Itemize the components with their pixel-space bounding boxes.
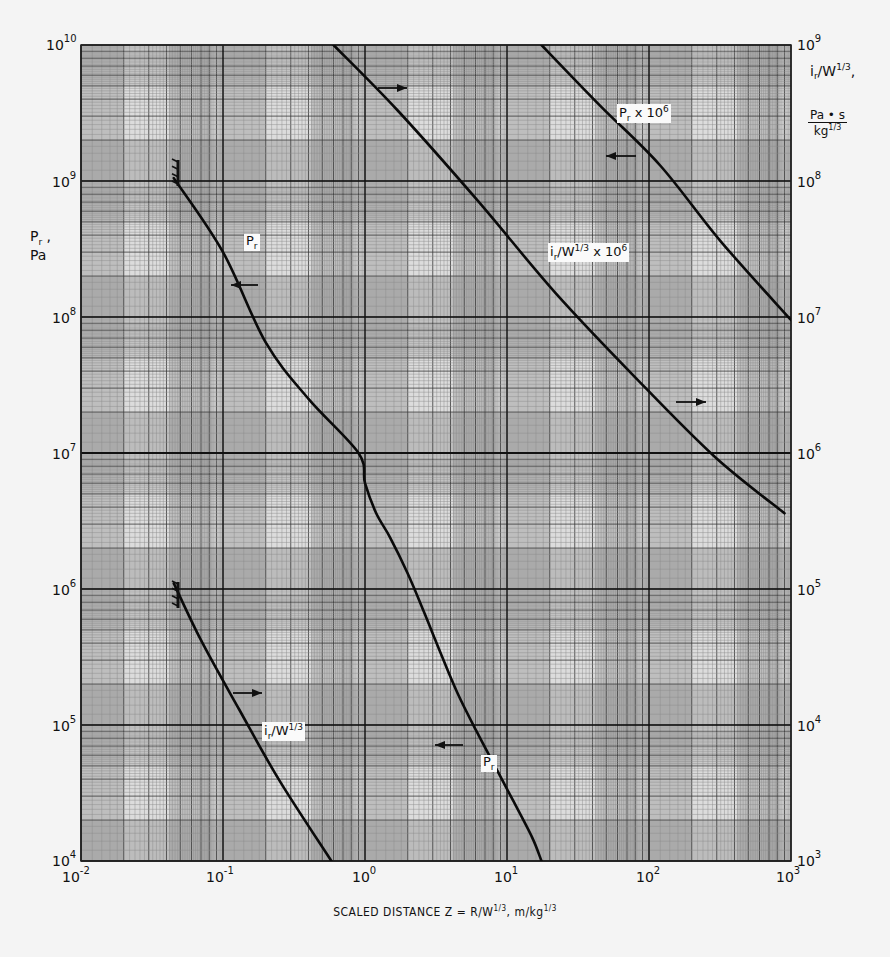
tick-base: 10 [206,869,224,885]
y-right-title: ir/W1/3, [810,62,855,81]
y-left-tick: 106 [52,581,76,597]
tick-exponent: 8 [70,306,76,317]
tick-exponent: 0 [370,865,376,876]
tick-exponent: 5 [70,714,76,725]
tick-exponent: 7 [70,442,76,453]
x-axis-title-main: SCALED DISTANCE Z = R/W [333,905,493,919]
y-right-unit-den-sup: 1/3 [828,123,841,132]
curve-label-prx-rest: x 10 [631,105,664,120]
tick-base: 10 [797,174,815,190]
y-right-tick: 106 [797,445,821,461]
y-right-tick: 109 [797,36,821,52]
tick-exponent: 4 [815,714,821,725]
y-right-tick: 108 [797,173,821,189]
x-tick: 100 [352,868,376,884]
y-right-unit-den-text: kg [814,124,829,138]
curve-label-pr-x1e6: Pr x 106 [617,104,671,123]
y-left-tick: 108 [52,309,76,325]
y-right-tick: 105 [797,581,821,597]
curve-label-irx-tail: x 10 [589,244,622,259]
y-right-tick: 103 [797,852,821,868]
x-axis-title: SCALED DISTANCE Z = R/W1/3, m/kg1/3 [0,904,890,919]
tick-base: 10 [776,869,794,885]
tick-exponent: 2 [654,865,660,876]
curve-label-ir-rest: /W [271,723,288,738]
tick-exponent: 9 [815,33,821,44]
tick-base: 10 [352,869,370,885]
y-right-unit-fraction: Pa • s kg1/3 [808,108,847,138]
y-left-tick: 104 [52,852,76,868]
curve-label-ir-sup: 1/3 [289,722,303,732]
chart-canvas [0,0,890,957]
tick-exponent: 4 [70,849,76,860]
tick-base: 10 [797,310,815,326]
y-left-tick: 109 [52,173,76,189]
y-left-tick: 107 [52,445,76,461]
curve-label-pr-symbol-2: P [483,754,491,769]
y-left-tick: 1010 [46,36,77,52]
x-tick: 102 [636,868,660,884]
tick-exponent: -2 [80,865,90,876]
y-right-unit: Pa • s kg1/3 [808,108,847,138]
tick-base: 10 [52,718,70,734]
x-tick: 10-2 [62,868,90,884]
tick-base: 10 [636,869,654,885]
y-right-unit-numerator: Pa • s [808,108,847,123]
tick-exponent: 9 [70,170,76,181]
tick-base: 10 [797,718,815,734]
curve-label-ir-x1e6: ir/W1/3 x 106 [548,243,629,262]
tick-exponent: 6 [815,442,821,453]
y-right-title-sup: 1/3 [836,62,850,72]
x-tick: 101 [494,868,518,884]
y-left-title-sep: , [42,228,51,244]
y-right-tick: 104 [797,717,821,733]
tick-exponent: 7 [815,306,821,317]
curve-label-irx-rest: /W [557,244,574,259]
tick-base: 10 [797,446,815,462]
curve-label-pr-symbol: P [246,233,254,248]
tick-base: 10 [52,853,70,869]
tick-base: 10 [52,174,70,190]
tick-exponent: 3 [794,865,800,876]
tick-base: 10 [52,582,70,598]
tick-exponent: 8 [815,170,821,181]
y-left-tick: 105 [52,717,76,733]
tick-base: 10 [62,869,80,885]
curve-label-irx-tail-sup: 6 [622,243,628,253]
y-right-tick: 107 [797,309,821,325]
curve-label-pr-lower: Pr [481,755,497,772]
tick-exponent: 3 [815,849,821,860]
x-axis-title-unit: , m/kg [507,905,544,919]
tick-exponent: 10 [64,33,77,44]
curve-label-prx-sup: 6 [663,104,669,114]
tick-base: 10 [52,310,70,326]
tick-base: 10 [797,582,815,598]
tick-exponent: 5 [815,578,821,589]
x-axis-title-sup2: 1/3 [544,904,557,913]
y-right-unit-denominator: kg1/3 [808,123,847,138]
x-axis-title-sup1: 1/3 [493,904,506,913]
tick-base: 10 [46,37,64,53]
x-tick: 10-1 [206,868,234,884]
y-right-title-comma: , [851,63,855,79]
curve-label-irx-sup: 1/3 [575,243,589,253]
y-left-title: Pr , Pa [30,228,51,263]
tick-exponent: -1 [224,865,234,876]
curve-label-pr-sub: r [254,241,258,251]
curve-label-prx-symbol: P [619,105,627,120]
curve-label-pr-upper-left: Pr [244,234,260,251]
tick-base: 10 [494,869,512,885]
tick-base: 10 [797,37,815,53]
y-left-title-unit: Pa [30,247,46,263]
tick-exponent: 6 [70,578,76,589]
curve-label-ir: ir/W1/3 [262,722,305,741]
x-tick: 103 [776,868,800,884]
curve-label-pr-sub-2: r [491,762,495,772]
tick-exponent: 1 [512,865,518,876]
y-right-title-rest: /W [818,63,837,79]
tick-base: 10 [52,446,70,462]
